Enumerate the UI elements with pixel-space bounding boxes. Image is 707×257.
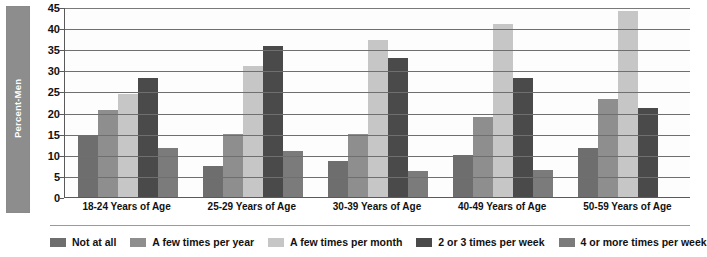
- y-axis-tick-mark: [59, 198, 64, 199]
- bar: [118, 94, 138, 197]
- x-axis-category-label: 25-29 Years of Age: [208, 201, 296, 212]
- gridline: [65, 50, 690, 51]
- gridline: [65, 29, 690, 30]
- legend-divider: [50, 225, 690, 226]
- bar: [408, 171, 428, 197]
- legend-label: Not at all: [72, 236, 116, 248]
- legend-label: 4 or more times per week: [581, 236, 707, 248]
- legend-item: A few times per month: [268, 236, 402, 248]
- bar: [348, 134, 368, 197]
- bar-group: [566, 8, 691, 197]
- legend-swatch-icon: [130, 238, 146, 247]
- legend-item: 2 or 3 times per week: [416, 236, 544, 248]
- bar: [263, 46, 283, 197]
- legend-swatch-icon: [559, 238, 575, 247]
- y-axis-tick-mark: [59, 177, 64, 178]
- legend-swatch-icon: [416, 238, 432, 247]
- legend: Not at allA few times per yearA few time…: [50, 232, 696, 252]
- bar-group: [190, 8, 315, 197]
- bar: [473, 117, 493, 197]
- x-axis-category-label: 50-59 Years of Age: [583, 201, 671, 212]
- bar: [533, 170, 553, 197]
- y-axis-tick-mark: [59, 8, 64, 9]
- y-axis-tick-mark: [59, 71, 64, 72]
- legend-item: Not at all: [50, 236, 116, 248]
- legend-label: A few times per year: [152, 236, 254, 248]
- gridline: [65, 135, 690, 136]
- y-axis-tick-labels: 051015202530354045: [30, 8, 60, 198]
- bar: [283, 151, 303, 197]
- legend-label: 2 or 3 times per week: [438, 236, 544, 248]
- legend-swatch-icon: [50, 238, 66, 247]
- bar-group: [315, 8, 440, 197]
- y-axis-tick-mark: [59, 50, 64, 51]
- bar: [98, 110, 118, 197]
- y-axis-title: Percent-Men: [6, 6, 28, 211]
- y-axis-tick-mark: [59, 156, 64, 157]
- bar: [638, 108, 658, 197]
- gridline: [65, 156, 690, 157]
- x-axis-category-labels: 18-24 Years of Age25-29 Years of Age30-3…: [64, 201, 690, 217]
- legend-item: A few times per year: [130, 236, 254, 248]
- bar: [618, 11, 638, 197]
- gridline: [65, 177, 690, 178]
- bar: [328, 161, 348, 197]
- legend-swatch-icon: [268, 238, 284, 247]
- gridline: [65, 92, 690, 93]
- bar: [203, 166, 223, 197]
- x-axis-category-label: 30-39 Years of Age: [333, 201, 421, 212]
- y-axis-tick-mark: [59, 92, 64, 93]
- bar-group: [441, 8, 566, 197]
- plot-area: [64, 8, 690, 198]
- bar-group: [65, 8, 190, 197]
- gridline: [65, 71, 690, 72]
- gridline: [65, 114, 690, 115]
- x-axis-category-label: 40-49 Years of Age: [458, 201, 546, 212]
- bar: [513, 78, 533, 197]
- gridline: [65, 8, 690, 9]
- bar: [368, 40, 388, 197]
- x-axis-category-label: 18-24 Years of Age: [82, 201, 170, 212]
- legend-label: A few times per month: [290, 236, 402, 248]
- y-axis-tick-mark: [59, 29, 64, 30]
- y-axis-tick-mark: [59, 114, 64, 115]
- y-axis-tick-mark: [59, 135, 64, 136]
- bar-groups: [65, 8, 690, 197]
- bar: [78, 135, 98, 197]
- bar: [223, 134, 243, 197]
- legend-item: 4 or more times per week: [559, 236, 707, 248]
- bar: [138, 78, 158, 197]
